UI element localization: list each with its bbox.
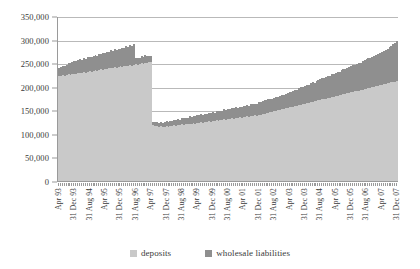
legend-swatch-wholesale-liabilities [205, 250, 212, 257]
y-axis-tick-label: 100,000 [21, 130, 49, 140]
y-axis-tick-label: 300,000 [21, 36, 49, 46]
bar-segment-wholesale-liabilities [396, 41, 398, 82]
chart-legend: deposits wholesale liabilities [0, 248, 420, 258]
y-axis-tick-label: 0 [45, 177, 49, 187]
x-axis-column: 31 Dec 07 [395, 183, 397, 245]
x-axis-tick-mark [396, 183, 397, 186]
legend-item-deposits[interactable]: deposits [130, 248, 171, 258]
y-axis-tick-label: 250,000 [21, 59, 49, 69]
bar-column [396, 17, 398, 181]
y-axis-tick-label: 350,000 [21, 12, 49, 22]
y-axis-tick-label: 50,000 [25, 153, 49, 163]
legend-label-wholesale-liabilities: wholesale liabilities [216, 248, 290, 258]
legend-label-deposits: deposits [141, 248, 171, 258]
bar-segment-deposits [396, 81, 398, 181]
chart-container: 050,000100,000150,000200,000250,000300,0… [0, 0, 420, 269]
y-axis: 050,000100,000150,000200,000250,000300,0… [0, 0, 57, 199]
plot-area [57, 17, 398, 182]
legend-item-wholesale-liabilities[interactable]: wholesale liabilities [205, 248, 290, 258]
y-axis-tick-label: 200,000 [21, 83, 49, 93]
bar-series-group [58, 17, 398, 181]
x-axis: Apr 9331 Dec 9331 Aug 94Apr 9531 Dec 953… [57, 183, 398, 245]
legend-swatch-deposits [130, 250, 137, 257]
x-axis-tick-label: 31 Dec 07 [392, 188, 401, 220]
y-axis-tick-label: 150,000 [21, 106, 49, 116]
